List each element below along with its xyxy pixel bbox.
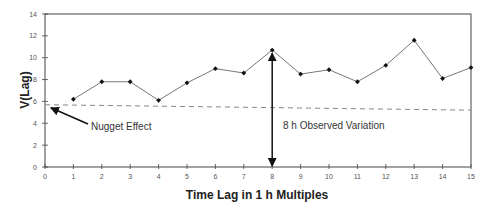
nugget-trend-line [45,105,471,110]
x-tick-label: 5 [185,173,189,180]
observed-variation-label: 8 h Observed Variation [283,120,385,131]
x-tick-label: 8 [270,173,274,180]
y-tick-label: 8 [33,76,37,83]
plot-border [45,14,471,167]
x-tick-label: 14 [439,173,447,180]
x-tick-label: 4 [157,173,161,180]
x-tick-label: 10 [325,173,333,180]
y-tick-label: 0 [33,164,37,171]
data-point-marker [355,79,360,84]
x-tick-label: 6 [213,173,217,180]
x-tick-label: 11 [354,173,361,180]
x-axis-ticks: 0123456789101112131415 [43,164,475,180]
x-tick-label: 1 [71,173,75,180]
y-tick-label: 4 [33,120,37,127]
y-axis-title: V(Lag) [18,71,32,108]
y-tick-label: 10 [29,54,37,61]
data-point-marker [185,80,190,85]
data-point-marker [71,97,76,102]
x-tick-label: 7 [242,173,246,180]
x-axis-title: Time Lag in 1 h Multiples [186,188,329,202]
semivariogram-chart: 02468101214 0123456789101112131415 Time … [0,0,492,210]
x-tick-label: 15 [467,173,475,180]
data-point-marker [99,79,104,84]
data-point-marker [469,65,474,70]
x-tick-label: 12 [382,173,390,180]
y-tick-label: 2 [33,142,37,149]
nugget-effect-label: Nugget Effect [91,121,152,132]
x-tick-label: 2 [100,173,104,180]
y-tick-label: 6 [33,98,37,105]
nugget-arrow [51,108,88,124]
annotations [51,53,272,166]
x-tick-label: 3 [128,173,132,180]
x-tick-label: 13 [410,173,418,180]
y-tick-label: 14 [29,11,37,18]
x-tick-label: 0 [43,173,47,180]
data-point-marker [327,67,332,72]
y-tick-label: 12 [29,32,37,39]
data-point-marker [213,66,218,71]
plot-frame [45,14,471,167]
x-tick-label: 9 [299,173,303,180]
dashed-trend [45,105,471,110]
